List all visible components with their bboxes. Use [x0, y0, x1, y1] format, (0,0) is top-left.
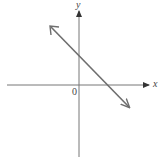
x-axis-label: x: [153, 79, 157, 89]
plotted-line: [51, 27, 129, 107]
origin-label: 0: [72, 87, 77, 97]
y-axis-label: y: [76, 0, 80, 10]
coordinate-plane: [0, 0, 164, 164]
